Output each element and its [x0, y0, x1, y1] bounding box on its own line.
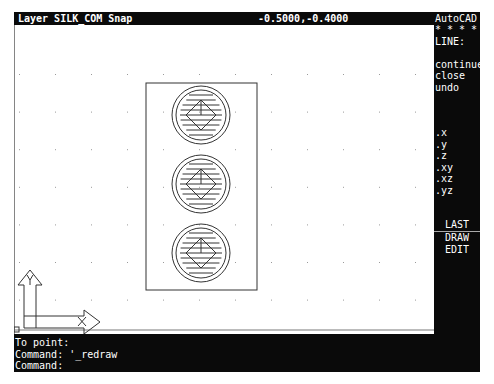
menu-stars[interactable]: * * * * — [435, 24, 477, 35]
status-bar: Layer SILK_COM Snap -0.5000,-0.4000 — [14, 12, 434, 25]
pad — [172, 224, 230, 282]
pad — [172, 86, 230, 144]
y-label-glyph — [27, 275, 30, 280]
menu-nav-edit[interactable]: EDIT — [434, 244, 480, 255]
grid-dots — [19, 74, 416, 301]
autocad-screen: Layer SILK_COM Snap -0.5000,-0.4000 — [14, 12, 480, 372]
menu-item-undo[interactable]: undo — [435, 82, 459, 93]
command-prompt[interactable]: Command: — [14, 360, 480, 372]
drawing-canvas[interactable] — [14, 25, 434, 334]
menu-nav-last[interactable]: LAST — [434, 219, 480, 230]
menu-item-continue[interactable]: continue — [435, 59, 483, 70]
menu-filter-z[interactable]: .z — [435, 150, 447, 161]
menu-item-close[interactable]: close — [435, 70, 465, 81]
drawing-area[interactable] — [14, 25, 434, 334]
menu-filter-x[interactable]: .x — [435, 127, 447, 138]
menu-nav-draw[interactable]: DRAW — [434, 232, 480, 243]
pad — [172, 155, 230, 213]
menu-filter-xy[interactable]: .xy — [435, 162, 453, 173]
menu-command-line: LINE: — [435, 36, 465, 47]
layer-snap-status[interactable]: Layer SILK_COM Snap — [18, 12, 132, 25]
command-line-area[interactable]: To point: Command: '_redraw Command: — [14, 334, 480, 372]
command-history-line: To point: — [14, 337, 480, 349]
menu-filter-xz[interactable]: .xz — [435, 173, 453, 184]
coordinate-display[interactable]: -0.5000,-0.4000 — [258, 12, 348, 25]
ucs-icon — [14, 270, 100, 334]
screen-menu: AutoCAD * * * * LINE: continue close und… — [434, 12, 480, 334]
command-history-line: Command: '_redraw — [14, 349, 480, 361]
pads-group — [172, 86, 230, 282]
menu-filter-y[interactable]: .y — [435, 139, 447, 150]
menu-title[interactable]: AutoCAD — [435, 13, 477, 24]
menu-filter-yz[interactable]: .yz — [435, 185, 453, 196]
